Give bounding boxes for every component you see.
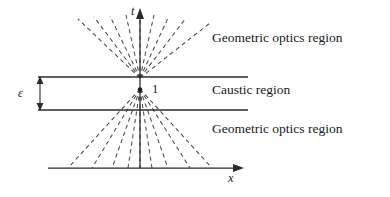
- x-axis-label: x: [228, 172, 234, 185]
- t-axis-label: t: [131, 5, 134, 18]
- focus-point-marker: [138, 87, 142, 91]
- geometric-optics-region-top-label: Geometric optics region: [212, 31, 342, 45]
- focus-point-label: 1: [152, 83, 158, 96]
- caustic-region-label: Caustic region: [212, 83, 290, 97]
- epsilon-label: ε: [18, 87, 23, 100]
- geometric-optics-region-bottom-label: Geometric optics region: [212, 122, 342, 136]
